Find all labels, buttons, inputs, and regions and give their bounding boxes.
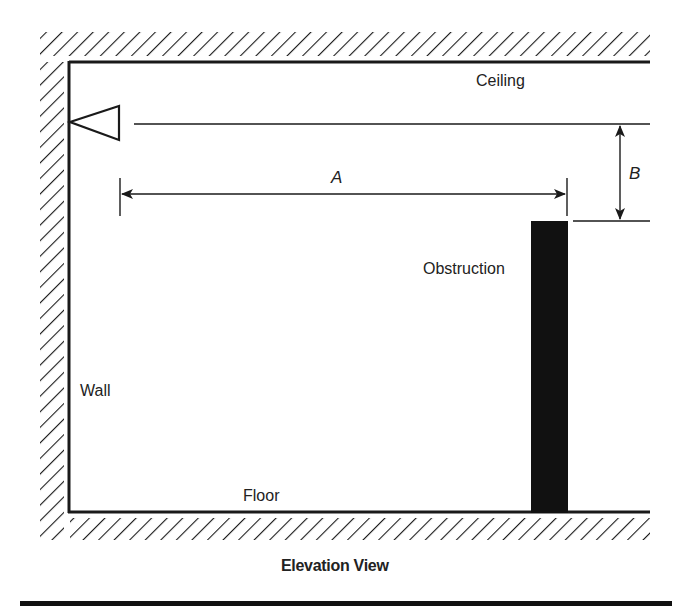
dimension-a-label: A	[331, 168, 342, 188]
ceiling-hatch	[40, 32, 650, 56]
dimension-a	[120, 178, 567, 216]
obstruction-label: Obstruction	[423, 260, 505, 278]
obstruction-bar	[531, 221, 568, 513]
detector-triangle	[70, 106, 119, 140]
bottom-rule	[20, 601, 672, 606]
wall-hatch	[40, 62, 64, 540]
wall-label: Wall	[80, 382, 111, 400]
floor-label: Floor	[243, 487, 279, 505]
dimension-b	[615, 125, 625, 220]
elevation-diagram	[0, 0, 691, 614]
diagram-title: Elevation View	[281, 557, 389, 575]
ceiling-label: Ceiling	[476, 72, 525, 90]
floor-hatch	[70, 518, 650, 540]
dimension-b-label: B	[629, 164, 640, 184]
